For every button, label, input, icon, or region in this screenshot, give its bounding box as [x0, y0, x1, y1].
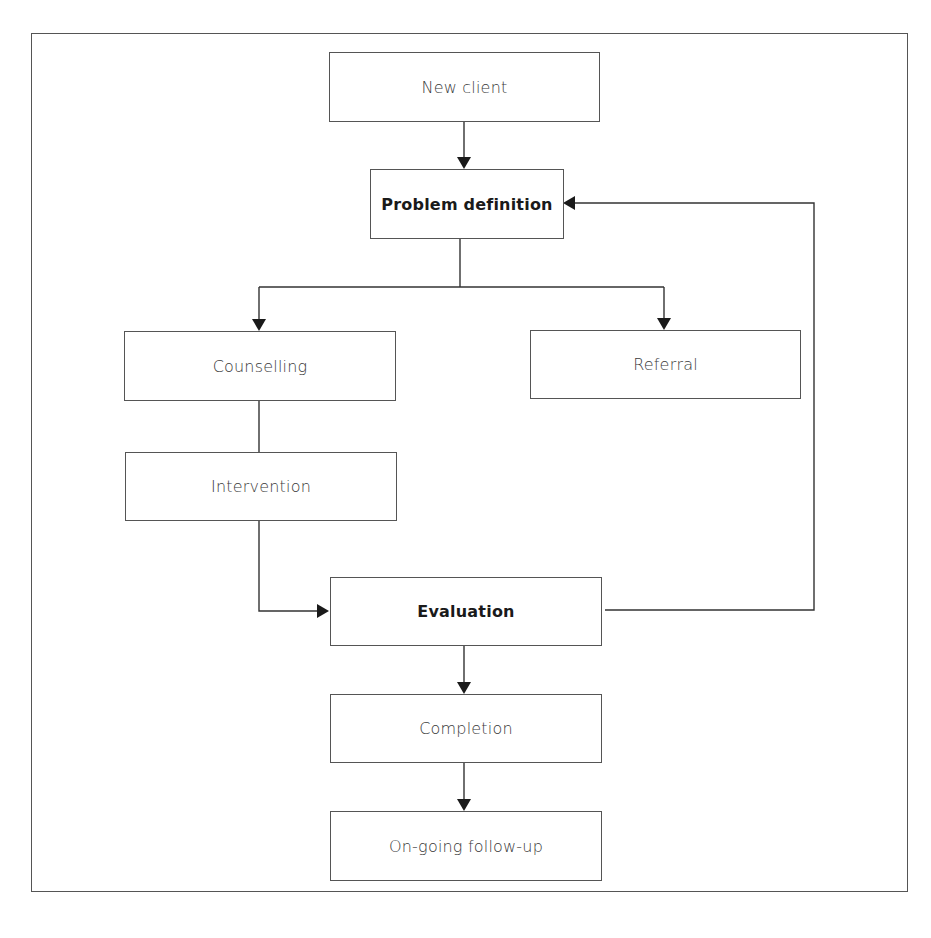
node-label: Problem definition — [381, 195, 552, 214]
node-label: Intervention — [211, 477, 311, 496]
node-completion: Completion — [330, 694, 602, 763]
node-referral: Referral — [530, 330, 801, 399]
node-evaluation: Evaluation — [330, 577, 602, 646]
node-label: Evaluation — [417, 602, 514, 621]
node-ongoing-follow-up: On-going follow-up — [330, 811, 602, 881]
node-label: On-going follow-up — [389, 837, 543, 856]
node-intervention: Intervention — [125, 452, 397, 521]
node-label: New client — [422, 78, 508, 97]
node-label: Counselling — [213, 357, 308, 376]
node-label: Referral — [633, 355, 698, 374]
node-label: Completion — [419, 719, 513, 738]
node-counselling: Counselling — [124, 331, 396, 401]
node-new-client: New client — [329, 52, 600, 122]
node-problem-definition: Problem definition — [370, 169, 564, 239]
